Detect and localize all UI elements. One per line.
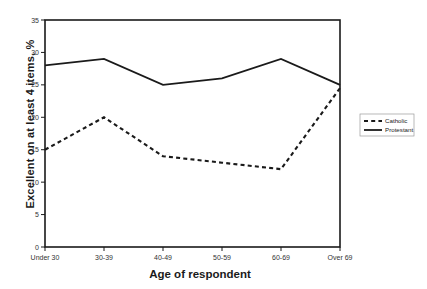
- y-tick-label: 25: [31, 81, 39, 88]
- chart-legend: CatholicProtestant: [360, 114, 414, 136]
- x-axis-ticks: Under 3030-3940-4950-5960-69Over 69: [31, 247, 353, 261]
- y-axis-ticks: 05101520253035: [31, 17, 45, 251]
- y-tick-label: 35: [31, 17, 39, 24]
- x-tick-label: 40-49: [154, 254, 172, 261]
- y-tick-label: 10: [31, 179, 39, 186]
- legend-label-protestant: Protestant: [385, 126, 413, 133]
- x-tick-label: 60-69: [272, 254, 290, 261]
- x-tick-label: Over 69: [328, 254, 353, 261]
- legend-label-catholic: Catholic: [385, 117, 407, 124]
- plot-area: 05101520253035 Under 3030-3940-4950-5960…: [0, 0, 427, 289]
- y-tick-label: 15: [31, 146, 39, 153]
- x-tick-label: Under 30: [31, 254, 60, 261]
- y-tick-label: 0: [35, 244, 39, 251]
- x-tick-label: 30-39: [95, 254, 113, 261]
- y-tick-label: 20: [31, 114, 39, 121]
- y-tick-label: 5: [35, 211, 39, 218]
- chart-figure: Excellent on at least 4 items, % Age of …: [0, 0, 427, 289]
- y-tick-label: 30: [31, 49, 39, 56]
- plot-border: [45, 20, 340, 247]
- x-tick-label: 50-59: [213, 254, 231, 261]
